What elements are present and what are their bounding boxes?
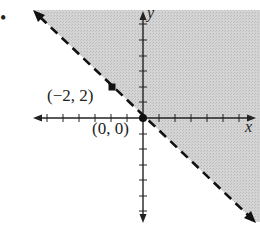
list-bullet: • (0, 8, 6, 28)
point-label-neg2-2: (−2, 2) (47, 86, 93, 105)
x-axis-left-arrow-icon (33, 115, 42, 122)
inequality-graph: • (0, 0, 260, 234)
y-axis-label: y (145, 4, 155, 22)
y-axis-down-arrow-icon (140, 214, 147, 223)
x-axis-label: x (244, 118, 252, 135)
point-label-origin: (0, 0) (92, 119, 129, 138)
point-marker-neg2-2 (109, 84, 116, 91)
point-marker-origin (139, 114, 147, 122)
